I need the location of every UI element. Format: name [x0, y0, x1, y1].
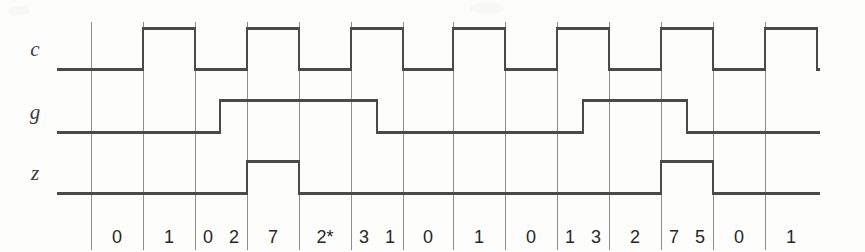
state-value-5-0: 3: [351, 228, 377, 246]
state-value-9-0: 1: [557, 228, 583, 246]
state-value-8-0: 0: [505, 228, 557, 246]
waveform-group: [57, 29, 820, 194]
grid-lines-group: [92, 22, 766, 250]
signal-label-g: g: [22, 102, 48, 123]
state-value-10-0: 2: [609, 228, 661, 246]
state-value-7-0: 1: [453, 228, 505, 246]
waveform-g: [57, 101, 820, 133]
timing-diagram-canvas: cgz 010272*310101327501: [0, 0, 865, 252]
state-value-3-0: 7: [247, 228, 299, 246]
state-value-6-0: 0: [403, 228, 453, 246]
state-value-9-1: 3: [583, 228, 609, 246]
signal-label-c: c: [22, 39, 48, 60]
signal-label-z: z: [22, 163, 48, 184]
state-value-4-0: 2*: [299, 228, 351, 246]
state-value-13-0: 1: [765, 228, 817, 246]
state-value-2-1: 2: [221, 228, 247, 246]
state-value-11-1: 5: [687, 228, 713, 246]
state-value-0-0: 0: [91, 228, 143, 246]
state-value-12-0: 0: [713, 228, 765, 246]
state-value-2-0: 0: [195, 228, 221, 246]
timing-diagram-svg: [0, 0, 865, 252]
waveform-z: [57, 162, 820, 194]
waveform-c: [57, 29, 820, 70]
state-value-11-0: 7: [661, 228, 687, 246]
state-value-1-0: 1: [143, 228, 195, 246]
state-value-5-1: 1: [377, 228, 403, 246]
